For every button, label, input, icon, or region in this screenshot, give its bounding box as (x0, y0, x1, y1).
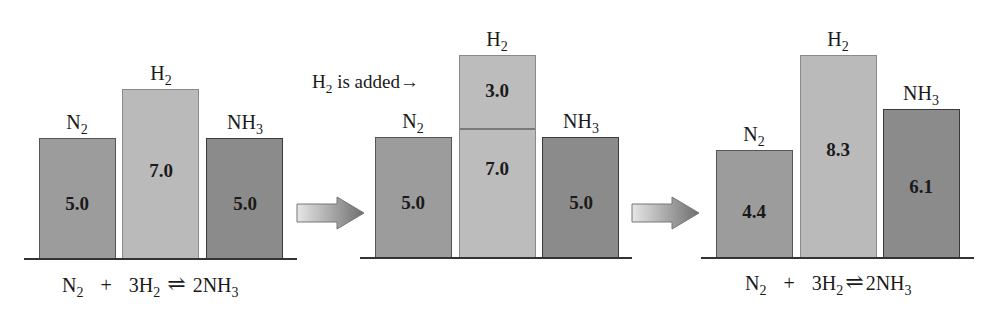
equation: N2 + 3H2⇌2NH3 (745, 272, 912, 298)
value-n2: 5.0 (401, 192, 425, 214)
label-n2: N2 (402, 111, 423, 136)
label-h2: H2 (486, 29, 507, 54)
right-arrow-icon (631, 195, 701, 231)
right-arrow-icon (296, 195, 366, 231)
baseline (24, 258, 297, 260)
equation: N2 + 3H2 ⇌ 2NH3 (62, 274, 239, 300)
value-h2: 8.3 (826, 139, 850, 161)
value-h2: 7.0 (149, 160, 173, 182)
label-n2: N2 (66, 112, 87, 137)
label-nh3: NH3 (903, 83, 939, 108)
added-divider (460, 128, 535, 130)
label-n2: N2 (743, 124, 764, 149)
h2-added-note: H2 is added→ (312, 72, 419, 95)
baseline (360, 257, 632, 259)
value-nh3: 5.0 (569, 192, 593, 214)
value-h2: 7.0 (485, 158, 509, 180)
value-nh3: 6.1 (909, 176, 933, 198)
label-nh3: NH3 (563, 111, 599, 136)
label-nh3: NH3 (227, 112, 263, 137)
value-nh3: 5.0 (233, 193, 257, 215)
label-h2: H2 (827, 29, 848, 54)
baseline (701, 257, 974, 259)
pointer-arrow-icon: → (400, 71, 419, 92)
value-n2: 4.4 (742, 201, 766, 223)
equilibrium-arrow-icon: ⇌ (167, 273, 185, 295)
value-h2-added: 3.0 (485, 80, 509, 102)
value-n2: 5.0 (65, 193, 89, 215)
label-h2: H2 (150, 63, 171, 88)
equilibrium-arrow-icon: ⇌ (845, 271, 863, 293)
